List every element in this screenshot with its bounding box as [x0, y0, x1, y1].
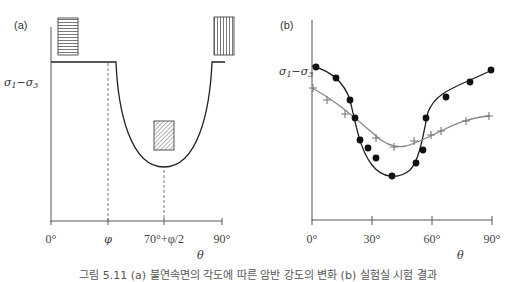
panel-b-x-label: θ — [457, 249, 464, 262]
panel-b-y-label: σ1−σ3 — [279, 65, 313, 79]
panel-a-strength-curve — [51, 62, 225, 167]
panel-a-y-label: σ1−σ3 — [4, 76, 38, 90]
panel-a-tick-0: 0° — [46, 232, 57, 246]
horizontal-joint-specimen-icon — [58, 18, 78, 55]
vertical-joint-specimen-icon — [214, 17, 234, 55]
figure-caption: 그림 5.11 (a) 불연속면의 각도에 따른 암반 강도의 변화 (b) 실… — [0, 266, 516, 282]
panel-b-label: (b) — [280, 19, 293, 31]
panel-b-tick-0: 0° — [307, 232, 318, 246]
cross-series-curve — [312, 88, 490, 147]
panel-a: (a) σ1−σ3 0° φ 70°+φ/2 90° θ — [4, 17, 234, 262]
panel-a-tick-70-phi-2: 70°+φ/2 — [144, 232, 184, 246]
diagonal-joint-specimen-icon — [154, 121, 174, 150]
panel-b-tick-60: 60° — [424, 232, 441, 246]
panel-a-label: (a) — [14, 19, 27, 31]
panel-a-tick-90: 90° — [214, 232, 231, 246]
cross-markers — [309, 84, 493, 151]
panel-b: (b) σ1−σ3 — [279, 19, 501, 262]
panel-a-x-label: θ — [197, 249, 204, 262]
panel-a-tick-phi: φ — [104, 233, 112, 246]
panel-b-tick-30: 30° — [364, 232, 381, 246]
panel-b-tick-90: 90° — [484, 232, 501, 246]
